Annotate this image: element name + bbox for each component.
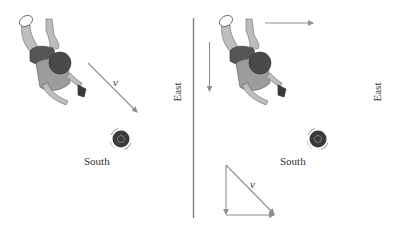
south-label-left: South [84,155,110,167]
diagram: v South East South East v [0,0,413,229]
east-label-right: East [371,83,383,102]
soccer-ball-left [110,129,131,150]
soccer-player-left [17,13,86,105]
east-label-left: East [171,83,183,102]
soccer-ball-right [307,129,328,150]
soccer-player-right [217,13,286,105]
vector-label-triangle: v [250,178,255,190]
diagram-canvas [0,0,413,229]
velocity-label-left: v [113,76,118,88]
south-label-right: South [280,155,306,167]
